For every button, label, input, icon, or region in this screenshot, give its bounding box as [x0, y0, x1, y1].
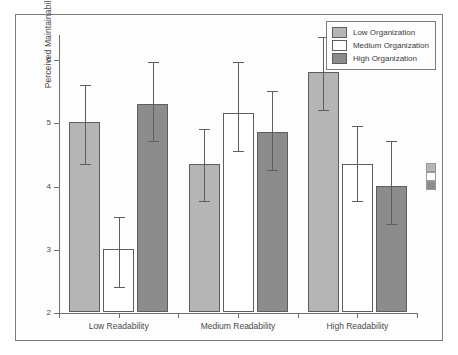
y-tick-label-3: 3: [47, 245, 51, 254]
error-bar-high-0: [153, 62, 154, 141]
x-axis-label-0: Low Readability: [89, 321, 149, 331]
error-cap-bottom: [199, 201, 210, 202]
x-tick-boundary-3: [417, 313, 418, 318]
y-tick-label-4: 4: [47, 182, 51, 191]
artifact-cell-high: [426, 181, 436, 190]
error-bar-low-0: [85, 85, 86, 164]
y-axis-line: [59, 35, 60, 314]
x-tick-boundary-2: [298, 313, 299, 318]
error-cap-top: [233, 62, 244, 63]
legend-item-high[interactable]: High Organization: [332, 52, 429, 65]
error-cap-bottom: [386, 224, 397, 225]
error-cap-bottom: [352, 201, 363, 202]
x-axis-label-2: High Readability: [326, 321, 388, 331]
error-bar-high-1: [272, 91, 273, 170]
error-cap-top: [199, 129, 210, 130]
y-tick-6: 6: [54, 60, 59, 61]
artifact-cell-med: [426, 172, 436, 181]
error-bar-med-1: [238, 62, 239, 150]
error-cap-top: [267, 91, 278, 92]
y-tick-label-5: 5: [47, 118, 51, 127]
legend-item-low[interactable]: Low Organization: [332, 26, 429, 39]
error-cap-bottom: [148, 141, 159, 142]
x-tick-1: [238, 313, 239, 318]
error-cap-bottom: [267, 170, 278, 171]
error-cap-top: [80, 85, 91, 86]
error-cap-bottom: [80, 164, 91, 165]
legend-swatch-med: [332, 40, 347, 51]
error-bar-med-2: [357, 126, 358, 202]
error-cap-top: [386, 141, 397, 142]
error-cap-top: [114, 217, 125, 218]
legend-label-low: Low Organization: [353, 28, 415, 37]
error-bar-low-1: [204, 129, 205, 202]
legend-label-high: High Organization: [353, 54, 417, 63]
legend-item-med[interactable]: Medium Organization: [332, 39, 429, 52]
legend-swatch-high: [332, 53, 347, 64]
y-tick-4: 4: [54, 187, 59, 188]
error-bar-high-2: [391, 141, 392, 223]
y-axis-title: Perceived Maintainability: [43, 0, 53, 135]
chart-legend: Low OrganizationMedium OrganizationHigh …: [326, 21, 436, 70]
y-tick-label-2: 2: [47, 308, 51, 317]
y-tick-3: 3: [54, 250, 59, 251]
x-tick-2: [357, 313, 358, 318]
y-tick-label-6: 6: [47, 55, 51, 64]
x-tick-0: [119, 313, 120, 318]
error-cap-top: [148, 62, 159, 63]
error-bar-med-0: [119, 217, 120, 287]
x-tick-boundary-0: [59, 313, 60, 318]
plot-area: Perceived Maintainability 23456 Low Read…: [59, 35, 417, 313]
legend-label-med: Medium Organization: [353, 41, 429, 50]
error-bar-low-2: [323, 37, 324, 110]
x-axis-label-1: Medium Readability: [201, 321, 276, 331]
error-cap-bottom: [318, 110, 329, 111]
legend-swatch-low: [332, 27, 347, 38]
error-cap-bottom: [114, 287, 125, 288]
error-cap-top: [352, 126, 363, 127]
y-tick-5: 5: [54, 123, 59, 124]
scan-artifact-swatches: [426, 163, 436, 190]
chart-figure: Perceived Maintainability 23456 Low Read…: [15, 14, 443, 341]
x-tick-boundary-1: [178, 313, 179, 318]
artifact-cell-low: [426, 163, 436, 172]
error-cap-bottom: [233, 151, 244, 152]
